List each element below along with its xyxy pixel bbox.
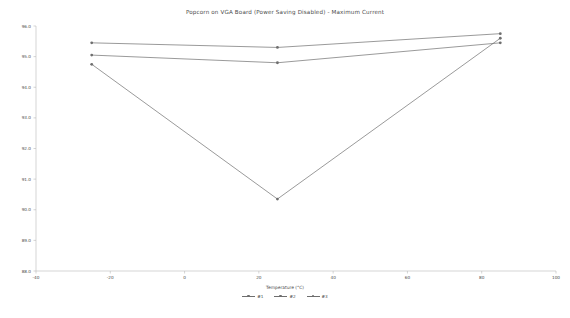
x-axis-tick-label: 20 bbox=[246, 275, 272, 280]
plot-area bbox=[0, 0, 570, 318]
y-axis-tick-label: 94.0 bbox=[5, 85, 31, 90]
y-axis-tick-label: 92.0 bbox=[5, 146, 31, 151]
axis-ticks bbox=[34, 26, 557, 274]
x-axis-tick-label: 40 bbox=[320, 275, 346, 280]
y-axis-tick-label: 95.0 bbox=[5, 54, 31, 59]
legend-marker-icon bbox=[242, 294, 255, 299]
y-axis-tick-label: 88.0 bbox=[5, 269, 31, 274]
y-axis-tick-label: 91.0 bbox=[5, 177, 31, 182]
x-axis-tick-label: -20 bbox=[97, 275, 123, 280]
x-axis-tick-label: 80 bbox=[469, 275, 495, 280]
x-axis-tick-label: 100 bbox=[543, 275, 569, 280]
data-point-marker bbox=[90, 63, 93, 66]
data-series bbox=[90, 32, 501, 200]
y-axis-tick-label: 93.0 bbox=[5, 115, 31, 120]
series-line-2 bbox=[92, 43, 501, 63]
y-axis-tick-label: 90.0 bbox=[5, 207, 31, 212]
data-point-marker bbox=[499, 41, 502, 44]
series-line-3 bbox=[92, 38, 501, 199]
legend-label: #3 bbox=[322, 294, 328, 299]
y-axis-tick-label: 96.0 bbox=[5, 24, 31, 29]
legend-marker-icon bbox=[307, 294, 320, 299]
x-axis-tick-label: -40 bbox=[23, 275, 49, 280]
legend-entry-3[interactable]: #3 bbox=[307, 294, 328, 299]
data-point-marker bbox=[499, 32, 502, 35]
legend-label: #1 bbox=[257, 294, 263, 299]
data-point-marker bbox=[276, 46, 279, 49]
data-point-marker bbox=[90, 54, 93, 57]
series-line-1 bbox=[92, 34, 501, 48]
axes bbox=[36, 26, 556, 271]
legend-label: #2 bbox=[289, 294, 295, 299]
chart-legend: #1#2#3 bbox=[0, 294, 570, 299]
legend-marker-icon bbox=[274, 294, 287, 299]
legend-entry-2[interactable]: #2 bbox=[274, 294, 295, 299]
data-point-marker bbox=[499, 37, 502, 40]
data-point-marker bbox=[90, 41, 93, 44]
chart-figure: Popcorn on VGA Board (Power Saving Disab… bbox=[0, 0, 570, 318]
y-axis-tick-label: 89.0 bbox=[5, 238, 31, 243]
legend-entry-1[interactable]: #1 bbox=[242, 294, 263, 299]
data-point-marker bbox=[276, 61, 279, 64]
x-axis-tick-label: 60 bbox=[394, 275, 420, 280]
x-axis-tick-label: 0 bbox=[172, 275, 198, 280]
data-point-marker bbox=[276, 198, 279, 201]
